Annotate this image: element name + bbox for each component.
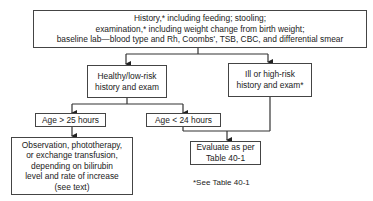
age-under-label: Age < 24 hours bbox=[155, 115, 212, 126]
ill-line-1: Ill or high-risk bbox=[245, 69, 295, 80]
observation-line-2: or exchange transfusion, bbox=[26, 150, 118, 161]
healthy-low-risk-box: Healthy/low-risk history and exam bbox=[87, 65, 167, 98]
ill-high-risk-box: Ill or high-risk history and exam* bbox=[228, 63, 312, 97]
history-line-2: examination,* including weight change fr… bbox=[95, 24, 304, 35]
observation-line-4: level and rate of increase bbox=[25, 171, 119, 182]
ill-line-2: history and exam* bbox=[236, 80, 303, 91]
footnote: *See Table 40-1 bbox=[193, 178, 250, 187]
age-over-label: Age > 25 hours bbox=[42, 115, 99, 126]
age-under-24-box: Age < 24 hours bbox=[146, 113, 221, 127]
evaluate-line-2: Table 40-1 bbox=[206, 153, 245, 164]
observation-line-3: depending on bilirubin bbox=[31, 161, 113, 172]
observation-line-1: Observation, phototherapy, bbox=[22, 140, 122, 151]
healthy-line-1: Healthy/low-risk bbox=[97, 71, 156, 82]
age-over-25-box: Age > 25 hours bbox=[35, 113, 106, 127]
history-line-3: baseline lab—blood type and Rh, Coombs',… bbox=[57, 34, 344, 45]
observation-line-5: (see text) bbox=[55, 182, 90, 193]
history-exam-box: History,* including feeding; stooling; e… bbox=[33, 10, 367, 48]
evaluate-line-1: Evaluate as per bbox=[196, 142, 254, 153]
evaluate-box: Evaluate as per Table 40-1 bbox=[190, 141, 261, 165]
observation-box: Observation, phototherapy, or exchange t… bbox=[11, 137, 133, 195]
healthy-line-2: history and exam bbox=[95, 82, 159, 93]
history-line-1: History,* including feeding; stooling; bbox=[134, 13, 266, 24]
